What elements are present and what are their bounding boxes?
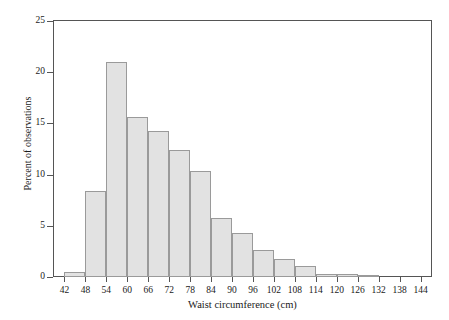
bars-layer	[54, 21, 431, 277]
histogram-bar	[169, 150, 190, 277]
y-axis-tick	[47, 226, 53, 227]
histogram-bar	[253, 250, 274, 277]
histogram-figure: 0510152025 42485460667278849096102108114…	[0, 0, 449, 320]
x-axis-tick	[379, 277, 380, 282]
histogram-bar	[106, 62, 127, 277]
x-axis-tick	[421, 277, 422, 282]
x-axis-tick	[127, 277, 128, 282]
y-axis-tick-label: 25	[0, 16, 45, 26]
x-axis-tick	[211, 277, 212, 282]
x-axis-tick-label: 90	[227, 285, 237, 295]
y-axis-tick-label: 0	[0, 272, 45, 282]
histogram-bar	[211, 218, 232, 277]
x-axis-tick	[106, 277, 107, 282]
x-axis-tick	[274, 277, 275, 282]
x-axis-tick	[253, 277, 254, 282]
histogram-bar	[85, 191, 106, 277]
histogram-bar	[337, 274, 358, 277]
x-axis-tick-label: 66	[144, 285, 154, 295]
x-axis-tick-label: 72	[164, 285, 174, 295]
y-axis-tick	[47, 175, 53, 176]
x-axis-tick-label: 102	[267, 285, 281, 295]
x-axis-tick-label: 132	[372, 285, 386, 295]
histogram-bar	[316, 274, 337, 277]
x-axis-tick-label: 54	[102, 285, 112, 295]
y-axis-tick	[47, 277, 53, 278]
x-axis-tick	[400, 277, 401, 282]
histogram-bar	[64, 272, 85, 277]
x-axis-tick-label: 120	[330, 285, 344, 295]
x-axis-tick-label: 114	[309, 285, 323, 295]
x-axis-tick	[316, 277, 317, 282]
x-axis-tick	[190, 277, 191, 282]
x-axis-tick-label: 48	[81, 285, 91, 295]
x-axis-tick-label: 84	[206, 285, 216, 295]
x-axis-tick-label: 42	[60, 285, 70, 295]
x-axis-tick-label: 138	[392, 285, 406, 295]
histogram-bar	[358, 275, 379, 277]
y-axis-tick	[47, 21, 53, 22]
x-axis-tick-label: 108	[288, 285, 302, 295]
y-axis-tick	[47, 123, 53, 124]
y-axis-title: Percent of observations	[22, 54, 33, 234]
histogram-bar	[190, 171, 211, 277]
x-axis-tick-label: 96	[248, 285, 258, 295]
x-axis-tick	[337, 277, 338, 282]
x-axis-tick	[232, 277, 233, 282]
histogram-bar	[295, 266, 316, 277]
y-axis-tick	[47, 72, 53, 73]
histogram-bar	[232, 233, 253, 277]
x-axis-tick	[358, 277, 359, 282]
x-axis-tick	[295, 277, 296, 282]
x-axis-tick-label: 144	[413, 285, 427, 295]
histogram-bar	[274, 259, 295, 277]
x-axis-tick-label: 126	[351, 285, 365, 295]
x-axis-tick-label: 60	[123, 285, 133, 295]
x-axis-tick	[169, 277, 170, 282]
x-axis-tick	[148, 277, 149, 282]
histogram-bar	[127, 117, 148, 277]
x-axis-tick	[85, 277, 86, 282]
histogram-bar	[148, 131, 169, 277]
x-axis-tick	[64, 277, 65, 282]
x-axis-tick-label: 78	[185, 285, 195, 295]
x-axis-title: Waist circumference (cm)	[53, 299, 432, 311]
